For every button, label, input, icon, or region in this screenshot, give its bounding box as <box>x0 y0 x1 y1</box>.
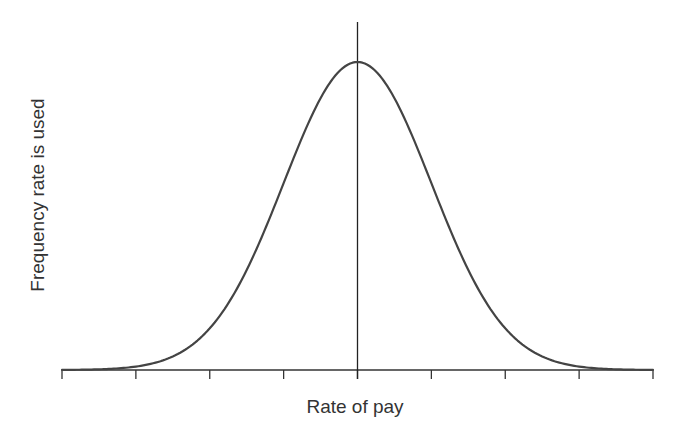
y-axis-label: Frequency rate is used <box>27 98 49 291</box>
x-axis-label: Rate of pay <box>306 396 403 418</box>
bell-curve-chart <box>0 0 685 447</box>
